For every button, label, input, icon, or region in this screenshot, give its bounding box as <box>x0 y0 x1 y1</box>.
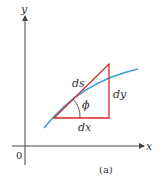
dy-label: dy <box>113 88 127 101</box>
caption: (a) <box>99 164 113 175</box>
arc-length-diagram: y x 0 ds dy dx ϕ (a) <box>0 0 161 184</box>
x-axis-label: x <box>146 140 153 153</box>
ds-label: ds <box>72 77 85 90</box>
angle-arc <box>73 99 80 118</box>
y-axis-label: y <box>20 3 28 16</box>
dx-label: dx <box>78 121 92 134</box>
origin-label: 0 <box>16 150 22 161</box>
phi-label: ϕ <box>82 99 90 112</box>
